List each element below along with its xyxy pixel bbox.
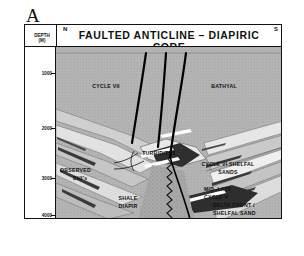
- tick-label-1000: 1000: [42, 71, 52, 76]
- label-shale-line1: SHALE: [119, 195, 138, 202]
- label-cycle-vi-line2: SANDS: [218, 169, 237, 176]
- tick-label-3000: 3000: [42, 176, 52, 181]
- depth-axis-label-line2: (M): [39, 38, 46, 43]
- label-observed: OBSERVED: [60, 167, 91, 174]
- label-mid-late-line1: MID–LATE: [204, 186, 232, 193]
- figure-panel: A DEPTH (M) N FAULTED ANTICLINE – DIAPIR…: [0, 0, 304, 256]
- label-bathyal: BATHYAL: [211, 83, 237, 90]
- label-cycle-vi-line1: CYCLE VI SHELFAL: [202, 161, 255, 168]
- tick-label-4000: 4000: [42, 213, 52, 218]
- depth-axis-label: DEPTH (M): [27, 33, 57, 44]
- depth-axis-label-line1: DEPTH: [34, 33, 50, 38]
- label-dhis: DHI's: [73, 175, 87, 182]
- label-shale-line2: DIAPIR: [118, 203, 137, 210]
- label-turbidites: TURBIDITES: [142, 150, 176, 157]
- cross-section-plot: CYCLE VII BATHYAL TURBIDITES OBSERVED DH…: [56, 47, 281, 218]
- title-bar: DEPTH (M) N FAULTED ANTICLINE – DIAPIRIC…: [25, 25, 281, 47]
- cross-section-frame: DEPTH (M) N FAULTED ANTICLINE – DIAPIRIC…: [24, 24, 282, 219]
- label-cycle-vii: CYCLE VII: [92, 83, 120, 90]
- north-direction-marker: N: [63, 26, 67, 32]
- south-direction-marker: S: [274, 26, 278, 32]
- title-divider: [56, 25, 57, 47]
- label-delta-front-line2: SHELFAL SAND: [213, 210, 256, 217]
- label-delta-front-line1: DELTA FRONT /: [213, 202, 255, 209]
- panel-letter: A: [26, 6, 40, 25]
- cross-section-graphic: [56, 47, 281, 218]
- tick-label-2000: 2000: [42, 126, 52, 131]
- label-mid-late-line2: CYCLE V: [204, 194, 228, 201]
- depth-axis: 1000 2000 3000 4000: [25, 47, 56, 218]
